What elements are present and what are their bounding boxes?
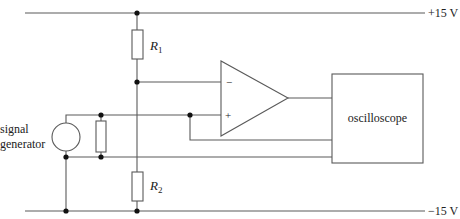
signal-generator-label-line2: generator: [0, 137, 45, 151]
junction-dot-icon: [98, 112, 103, 117]
junction-dot-icon: [63, 154, 68, 159]
circuit-diagram: +15 V −15 V R1 R2 − + oscilloscope signa…: [0, 0, 460, 219]
positive-rail-label: +15 V: [428, 6, 459, 20]
oscilloscope-label: oscilloscope: [348, 111, 407, 125]
negative-rail-label: −15 V: [428, 204, 459, 218]
junction-dot-icon: [63, 208, 68, 213]
resistor-r2-icon: [132, 172, 143, 201]
signal-generator-icon: [52, 123, 80, 151]
schematic-canvas: +15 V −15 V R1 R2 − + oscilloscope signa…: [0, 0, 460, 219]
junction-dot-icon: [98, 154, 103, 159]
junction-dot-icon: [134, 208, 139, 213]
signal-generator-label-line1: signal: [0, 122, 29, 136]
junction-dot-icon: [187, 112, 192, 117]
op-amp-inverting-sign: −: [226, 76, 232, 88]
op-amp-icon: [221, 61, 288, 136]
resistor-r1-icon: [132, 30, 143, 59]
op-amp-noninverting-sign: +: [225, 109, 231, 121]
r1-label: R1: [149, 38, 162, 55]
r2-label: R2: [149, 178, 162, 195]
reference-to-scope-wire: [190, 115, 332, 140]
non-inverting-input-wire: [66, 115, 221, 123]
junction-dot-icon: [134, 79, 139, 84]
junction-dot-icon: [134, 10, 139, 15]
load-resistor-icon: [96, 121, 106, 152]
